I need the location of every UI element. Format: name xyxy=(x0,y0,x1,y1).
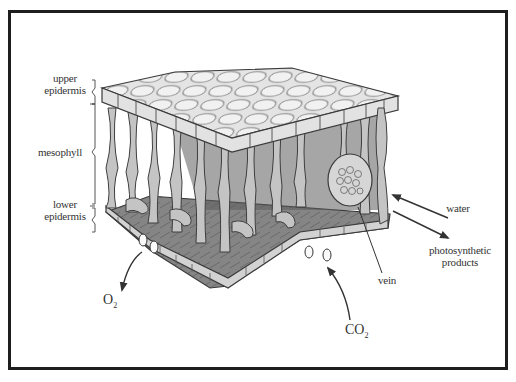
label-vein: vein xyxy=(374,274,400,286)
o2-arrow xyxy=(122,252,142,290)
layer-brackets xyxy=(90,80,95,232)
label-water: water xyxy=(438,202,478,214)
label-lower-epidermis: lower epidermis xyxy=(40,198,90,222)
label-upper-epidermis-line1: upper xyxy=(40,72,90,84)
o2-subscript: 2 xyxy=(113,301,117,310)
label-photosynthetic-products: photosynthetic products xyxy=(420,244,500,268)
label-upper-epidermis: upper epidermis xyxy=(40,72,90,96)
o2-base: O xyxy=(103,292,113,307)
label-upper-epidermis-line2: epidermis xyxy=(40,84,90,96)
label-co2: CO2 xyxy=(345,322,368,338)
label-photosynthetic-line1: photosynthetic xyxy=(420,244,500,256)
label-photosynthetic-line2: products xyxy=(420,256,500,268)
label-o2: O2 xyxy=(103,292,117,308)
label-lower-epidermis-line1: lower xyxy=(40,198,90,210)
label-mesophyll: mesophyll xyxy=(34,146,86,158)
vein-bundle xyxy=(328,154,372,206)
label-lower-epidermis-line2: epidermis xyxy=(40,210,90,222)
co2-base: CO xyxy=(345,322,364,337)
leaf-cross-section-illustration xyxy=(0,0,516,382)
co2-subscript: 2 xyxy=(364,331,368,340)
co2-arrow xyxy=(328,268,350,320)
side-mesophyll-cells xyxy=(376,108,388,224)
